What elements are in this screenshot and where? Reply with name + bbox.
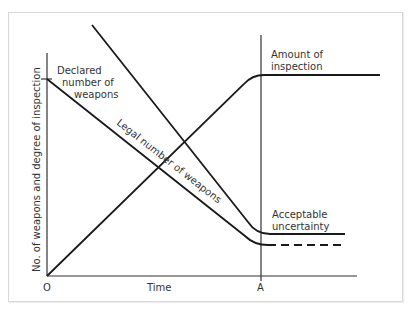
uncertainty-label-1: Acceptable bbox=[272, 209, 328, 220]
origin-label: O bbox=[43, 282, 51, 293]
legal-number-label: Legal number of weapons bbox=[115, 117, 224, 205]
inspection-label-2: inspection bbox=[271, 61, 322, 72]
x-axis-label: Time bbox=[146, 282, 171, 293]
declared-label-2: number of bbox=[62, 77, 114, 88]
inspection-label-1: Amount of bbox=[271, 49, 324, 60]
uncertainty-label-2: uncertainty bbox=[272, 221, 330, 232]
declared-label-1: Declared bbox=[57, 65, 102, 76]
y-axis-label: No. of weapons and degree of inspection bbox=[31, 67, 42, 272]
inspection-line bbox=[47, 75, 380, 276]
a-label: A bbox=[257, 282, 264, 293]
diagram-canvas: No. of weapons and degree of inspection … bbox=[0, 0, 412, 312]
declared-number-line bbox=[47, 79, 268, 245]
declared-label-3: weapons bbox=[74, 89, 118, 100]
